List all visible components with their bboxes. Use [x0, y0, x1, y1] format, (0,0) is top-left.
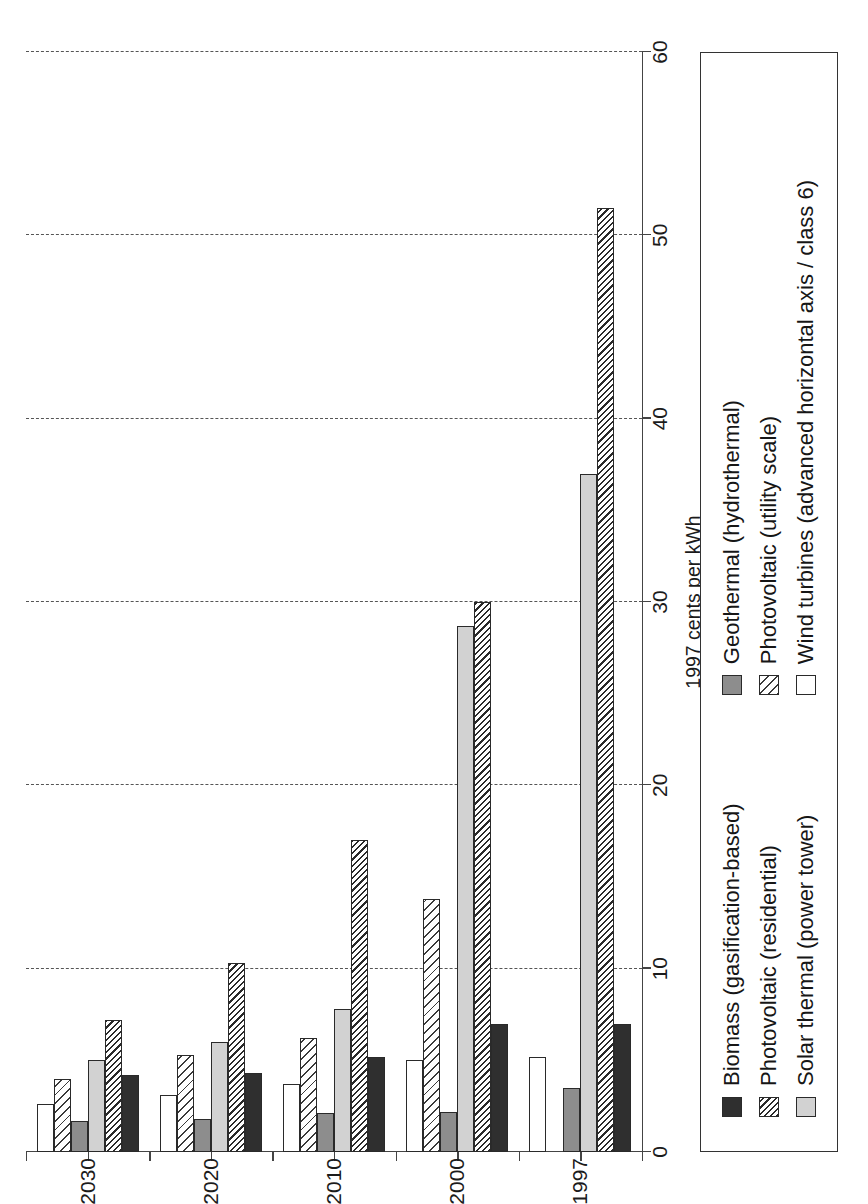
bar [105, 1020, 122, 1152]
value-tick-label: 60 [648, 22, 672, 82]
legend-item: Photovoltaic (residential) [756, 695, 782, 1117]
bar [440, 1112, 457, 1152]
legend-item: Geothermal (hydrothermal) [719, 87, 745, 695]
bar [491, 1024, 508, 1152]
legend-item: Biomass (gasification-based) [719, 695, 745, 1117]
value-tick-label: 10 [648, 939, 672, 999]
category-tick-label: 2000 [445, 1158, 469, 1204]
bar [406, 1060, 423, 1152]
chart-canvas: 01020304050601997 cents per kWh199720002… [0, 0, 868, 1204]
bar [368, 1057, 385, 1152]
category-boundary-tick [149, 1152, 150, 1161]
bar-group-2000 [396, 52, 519, 1152]
bar [37, 1104, 54, 1152]
legend-label: Photovoltaic (utility scale) [756, 416, 782, 664]
bar [194, 1119, 211, 1152]
category-boundary-tick [26, 1152, 27, 1161]
value-tick-label: 20 [648, 755, 672, 815]
legend-label: Solar thermal (power tower) [793, 815, 819, 1086]
legend-item: Solar thermal (power tower) [793, 695, 819, 1117]
legend-swatch-icon [759, 1097, 779, 1117]
value-tick-label: 50 [648, 205, 672, 265]
bar [228, 963, 245, 1152]
chart-legend: Biomass (gasification-based)Photovoltaic… [700, 52, 838, 1152]
category-tick-label: 1997 [568, 1158, 592, 1204]
bar [529, 1057, 546, 1152]
legend-column-one: Biomass (gasification-based)Photovoltaic… [719, 695, 819, 1117]
value-tick-label: 30 [648, 572, 672, 632]
legend-swatch-icon [796, 675, 816, 695]
legend-swatch-icon [759, 675, 779, 695]
bar [160, 1095, 177, 1152]
category-tick-label: 2020 [199, 1158, 223, 1204]
legend-column-two: Geothermal (hydrothermal)Photovoltaic (u… [719, 87, 819, 695]
legend-label: Geothermal (hydrothermal) [719, 400, 745, 664]
legend-item: Wind turbines (advanced horizontal axis … [793, 87, 819, 695]
plot-inner [26, 52, 642, 1152]
bar [423, 899, 440, 1152]
bar-group-2020 [149, 52, 272, 1152]
bar [300, 1038, 317, 1152]
bar [71, 1121, 88, 1152]
value-tick-label: 40 [648, 389, 672, 449]
category-boundary-tick [396, 1152, 397, 1161]
bar [211, 1042, 228, 1152]
bar [283, 1084, 300, 1152]
bar [122, 1075, 139, 1152]
bar-group-2010 [272, 52, 395, 1152]
value-tick-label: 0 [648, 1122, 672, 1182]
legend-item: Photovoltaic (utility scale) [756, 87, 782, 695]
plot-area: 01020304050601997 cents per kWh199720002… [26, 52, 642, 1152]
legend-swatch-icon [722, 1097, 742, 1117]
bar [563, 1088, 580, 1152]
bar [597, 208, 614, 1152]
legend-label: Biomass (gasification-based) [719, 804, 745, 1086]
category-boundary-tick [519, 1152, 520, 1161]
bar-group-2030 [26, 52, 149, 1152]
bar-group-1997 [519, 52, 642, 1152]
category-boundary-tick [272, 1152, 273, 1161]
bar [54, 1079, 71, 1152]
bar [474, 602, 491, 1152]
bar [245, 1073, 262, 1152]
category-boundary-tick [642, 1152, 643, 1161]
category-tick-label: 2030 [76, 1158, 100, 1204]
bar [88, 1060, 105, 1152]
bar [351, 840, 368, 1152]
legend-label: Photovoltaic (residential) [756, 845, 782, 1086]
bar [457, 626, 474, 1152]
legend-swatch-icon [796, 1097, 816, 1117]
legend-label: Wind turbines (advanced horizontal axis … [793, 180, 819, 664]
bar [614, 1024, 631, 1152]
bar [317, 1114, 334, 1153]
legend-swatch-icon [722, 675, 742, 695]
category-tick-label: 2010 [322, 1158, 346, 1204]
bar [580, 474, 597, 1152]
bar [177, 1055, 194, 1152]
bar [334, 1009, 351, 1152]
